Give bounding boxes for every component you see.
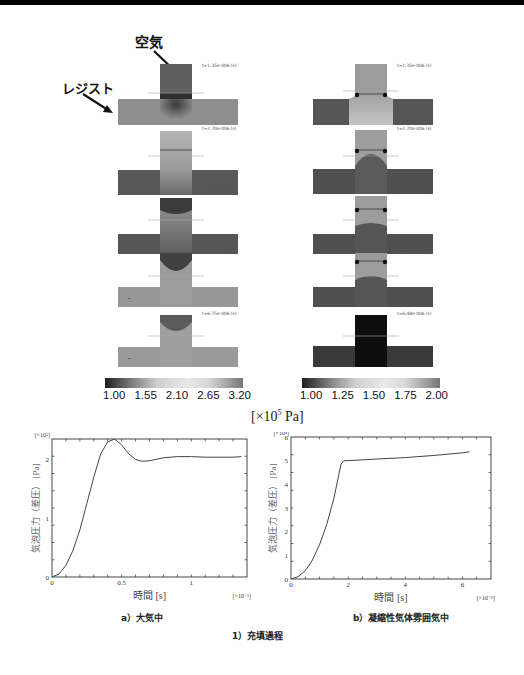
sim-panel-left-4 (118, 250, 238, 320)
unit-main: [×10 (251, 409, 278, 424)
y-tick-label: 1 (285, 552, 289, 560)
cbar-right-tick: 1.50 (363, 389, 385, 401)
x-tick-label: 0 (50, 579, 54, 587)
cbar-left-tick: 2.65 (197, 389, 219, 401)
cbar-left-tick: 2.10 (166, 389, 188, 401)
chart-condensable-gas: 02460123456時間 [s][×10⁻⁶][×10⁴]気泡圧力（差圧） [… (268, 432, 508, 612)
x-axis-label: 時間 [s] (133, 590, 166, 601)
x-multiplier: [×10⁻⁶] (477, 595, 495, 602)
colorbar-unit: [×105 Pa] (251, 408, 304, 425)
x-tick-label: 2 (346, 581, 350, 589)
cbar-left-tick: 3.20 (229, 389, 251, 401)
y-tick-label: 0 (46, 574, 50, 582)
y-multiplier: [×10⁵] (35, 432, 50, 439)
timestamp-left-2: t=2.70e-006 (s) (202, 126, 236, 131)
x-tick-label: 0.5 (117, 579, 126, 587)
cbar-left-tick: 1.00 (103, 389, 125, 401)
data-line (291, 452, 470, 579)
y-tick-label: 2 (285, 528, 289, 536)
y-tick-label: 3 (285, 505, 289, 513)
cbar-right-tick: 1.25 (331, 389, 353, 401)
timestamp-right-3: t=4.05e-006 (s) (397, 189, 431, 194)
chart-air: 00.51012時間 [s][×10⁻⁵][×10⁵]気泡圧力（差圧） [Pa] (30, 432, 270, 612)
plot-frame (52, 439, 247, 577)
top-black-bar (0, 0, 524, 5)
x-tick-label: 4 (404, 581, 408, 589)
x-axis-label: 時間 [s] (374, 592, 407, 603)
timestamp-left-5: t=6.75e-006 (s) (202, 311, 236, 316)
colorbar-left (105, 378, 243, 388)
sim-panel-right-4 (313, 250, 433, 320)
timestamp-left-1: t=1.35e-006 (s) (202, 63, 236, 68)
x-multiplier: [×10⁻⁵] (233, 593, 251, 600)
caption-b: b）凝縮性気体雰囲気中 (353, 611, 449, 624)
colorbar-right (302, 378, 440, 388)
unit-tail: Pa] (282, 409, 304, 424)
caption-main: 1）充填過程 (232, 629, 283, 642)
timestamp-right-2: t=2.70e-006 (s) (397, 126, 431, 131)
cbar-left-tick: 1.55 (134, 389, 156, 401)
sim-panel-left-2 (118, 126, 238, 196)
x-tick-label: 0 (289, 581, 293, 589)
y-tick-label: 2 (46, 456, 50, 464)
x-tick-label: 1 (190, 579, 194, 587)
colorbar-right-ticks: 1.00 1.25 1.50 1.75 2.00 (300, 389, 448, 401)
cbar-right-tick: 2.00 (426, 389, 448, 401)
y-axis-label: 気泡圧力（差圧） [Pa] (30, 463, 41, 552)
sim-panel-left-5 (118, 312, 238, 372)
colorbar-left-ticks: 1.00 1.55 2.10 2.65 3.20 (103, 389, 251, 401)
sim-panel-right-2 (313, 126, 433, 196)
timestamp-left-4: t=5.40e-006 (s) (202, 250, 236, 255)
y-tick-label: 1 (46, 515, 50, 523)
timestamp-right-1: t=1.35e-006 (s) (397, 63, 431, 68)
arrow-resist (80, 92, 120, 118)
y-tick-label: 0 (285, 576, 289, 584)
cbar-right-tick: 1.75 (394, 389, 416, 401)
sim-panel-right-5 (313, 312, 433, 372)
timestamp-right-5: t=6.48e-006 (s) (397, 311, 431, 316)
y-tick-label: 4 (285, 481, 289, 489)
data-line (52, 439, 241, 577)
caption-a: a）大気中 (121, 611, 163, 624)
timestamp-left-3: t=4.05e-006 (s) (202, 189, 236, 194)
x-tick-label: 6 (461, 581, 465, 589)
cbar-right-tick: 1.00 (300, 389, 322, 401)
timestamp-right-4: t=5.40e-006 (s) (397, 250, 431, 255)
y-tick-label: 5 (285, 457, 289, 465)
y-axis-label: 気泡圧力（差圧） [Pa] (268, 463, 278, 552)
